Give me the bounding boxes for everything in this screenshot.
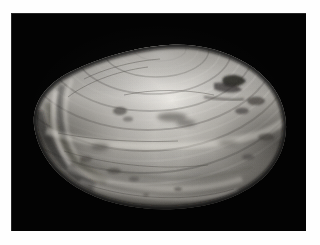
shell-body	[28, 39, 290, 211]
clam-shell-illustration	[28, 39, 290, 211]
clam-shell-subject	[28, 39, 290, 211]
photograph-plate	[0, 0, 320, 245]
photo-black-field	[11, 13, 306, 231]
